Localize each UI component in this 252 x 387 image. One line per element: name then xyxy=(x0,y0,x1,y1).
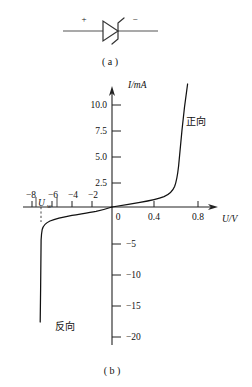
panel-a-caption: ( a ) xyxy=(102,56,118,68)
breakdown-voltage-label: U xyxy=(38,198,46,208)
forward-region-label: 正向 xyxy=(186,115,206,127)
y-tick-label-neg5: −5 xyxy=(126,239,136,249)
y-axis-title: I/mA xyxy=(127,80,147,90)
x-tick-label-0: 0 xyxy=(116,212,121,222)
anode-plus-sign: + xyxy=(81,14,86,24)
diode-triangle xyxy=(103,21,118,41)
y-tick-label-7p5: 7.5 xyxy=(95,126,107,136)
forward-branch-curve xyxy=(112,84,188,207)
x-tick-label-0p8: 0.8 xyxy=(192,212,204,222)
x-tick-label-neg4: −4 xyxy=(68,190,78,200)
y-tick-label-neg20: −20 xyxy=(126,332,141,342)
panel-b-caption: ( b ) xyxy=(104,365,121,377)
x-tick-label-neg8: −8 xyxy=(26,190,36,200)
reverse-branch-curve xyxy=(40,207,112,322)
y-tick-label-5: 5.0 xyxy=(95,152,107,162)
x-tick-label-0p4: 0.4 xyxy=(148,212,160,222)
x-tick-label-neg2: −2 xyxy=(88,190,98,200)
y-tick-label-neg10: −10 xyxy=(126,270,141,280)
y-tick-label-neg15: −15 xyxy=(126,301,141,311)
y-axis-ticks-negative xyxy=(112,244,121,337)
y-tick-label-2p5: 2.5 xyxy=(95,178,107,188)
y-tick-label-10: 10.0 xyxy=(90,100,107,110)
y-axis-ticks-positive xyxy=(112,105,121,183)
breakdown-voltage-subscript: w xyxy=(47,202,52,209)
panel-a-group: + − ( a ) xyxy=(63,14,158,68)
reverse-region-label: 反向 xyxy=(55,320,75,332)
figure-canvas: + − ( a ) xyxy=(0,0,252,387)
breakdown-voltage-marker: U w xyxy=(36,197,57,222)
x-axis-title: U/V xyxy=(222,214,239,224)
panel-b-group: 10.0 7.5 5.0 2.5 −5 −10 −15 −20 −8 −6 −4… xyxy=(23,80,239,377)
cathode-minus-sign: − xyxy=(132,14,137,24)
figure-page: + − ( a ) xyxy=(0,0,252,387)
